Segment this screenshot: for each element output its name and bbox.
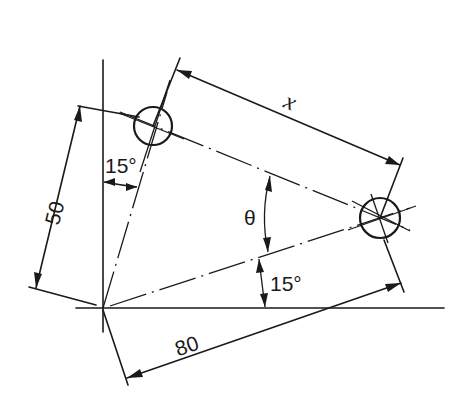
dim-80-label: 80 — [172, 331, 202, 360]
dimension-50: 50 — [29, 106, 139, 305]
arrow-head — [74, 106, 82, 122]
angle-theta: θ — [244, 176, 272, 252]
centerline-15deg-from-horizontal — [110, 208, 410, 306]
arrow-head — [385, 283, 401, 292]
drawing-canvas: x 50 80 15° θ 15° — [0, 0, 471, 411]
arrow-head — [126, 183, 137, 191]
angle-15-bottom: 15° — [256, 259, 302, 307]
dimension-80: 80 — [103, 240, 404, 385]
arrow-head — [256, 259, 264, 273]
dim-x-line — [177, 70, 400, 165]
arrow-head — [260, 293, 268, 307]
technical-drawing: x 50 80 15° θ 15° — [0, 0, 471, 411]
arrow-head — [34, 272, 42, 288]
angle-15-bottom-label: 15° — [270, 272, 302, 295]
dim-50-line — [36, 106, 80, 288]
dim-50-extension-2 — [29, 287, 96, 305]
arrow-head — [385, 156, 400, 165]
dimension-x: x — [153, 58, 403, 218]
hole-2 — [348, 194, 416, 243]
arrow-head — [104, 178, 115, 186]
dim-x-label: x — [279, 87, 300, 116]
angle-15-top: 15° — [104, 154, 137, 191]
dim-50-extension-1 — [78, 106, 139, 117]
arrow-head — [177, 70, 192, 79]
arrow-head — [265, 176, 272, 192]
arrow-head — [127, 369, 143, 378]
angle-15-top-label: 15° — [105, 154, 137, 177]
theta-label: θ — [244, 206, 256, 229]
dim-50-label: 50 — [40, 199, 68, 227]
dim-80-extension-1 — [103, 310, 128, 385]
dim-x-extension-2 — [380, 158, 403, 218]
dim-x-extension-1 — [153, 58, 180, 126]
